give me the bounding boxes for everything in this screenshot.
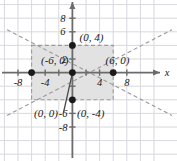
ytick-label-6: 6 bbox=[60, 26, 66, 37]
point-0-neg4 bbox=[69, 96, 76, 103]
point-6-0 bbox=[110, 69, 117, 76]
ytick-label-neg8: -8 bbox=[59, 122, 68, 133]
x-axis-arrow bbox=[153, 70, 160, 76]
point-label-neg6-0: (-6, 0) bbox=[41, 54, 69, 67]
point-label-0-0: (0, 0) bbox=[34, 107, 58, 120]
xtick-label-8: 8 bbox=[124, 77, 130, 88]
coordinate-plane-figure: -8 -4 4 8 8 6 2 -6 -8 x (0, 4) (-6, 0) (… bbox=[0, 0, 177, 161]
y-axis-arrow-top bbox=[69, 2, 75, 9]
ytick-label-neg6: -6 bbox=[59, 108, 68, 119]
point-0-0 bbox=[69, 69, 76, 76]
point-neg6-0 bbox=[28, 69, 35, 76]
point-label-0-neg4: (0, -4) bbox=[77, 107, 105, 120]
xtick-label-4: 4 bbox=[97, 77, 103, 88]
point-label-0-4: (0, 4) bbox=[80, 31, 104, 44]
graph-svg: -8 -4 4 8 8 6 2 -6 -8 x (0, 4) (-6, 0) (… bbox=[0, 0, 177, 161]
point-label-6-0: (6, 0) bbox=[106, 54, 130, 67]
xtick-label-neg8: -8 bbox=[14, 77, 23, 88]
x-axis-label: x bbox=[164, 67, 170, 78]
point-0-4 bbox=[69, 42, 76, 49]
ytick-label-8: 8 bbox=[60, 13, 66, 24]
xtick-label-neg4: -4 bbox=[41, 77, 50, 88]
